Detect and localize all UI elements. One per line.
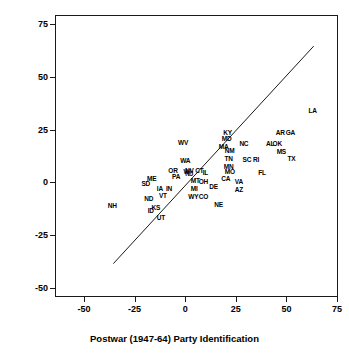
- data-point-wv: WV: [178, 140, 188, 147]
- x-tick-label: 75: [322, 305, 349, 314]
- x-tick-mark: [135, 297, 136, 302]
- y-tick-mark: [50, 130, 55, 131]
- data-point-ar: AR: [276, 129, 285, 136]
- data-point-wa: WA: [180, 158, 190, 165]
- data-point-la: LA: [309, 107, 317, 114]
- x-tick-mark: [236, 297, 237, 302]
- reference-line: [56, 16, 338, 297]
- data-point-tx: TX: [287, 156, 295, 163]
- data-point-md: MD: [222, 136, 232, 143]
- y-tick-mark: [50, 24, 55, 25]
- data-point-ca: CA: [221, 176, 230, 183]
- y-tick-label: 50: [8, 73, 48, 82]
- y-tick-label: -50: [8, 284, 48, 293]
- data-point-il: IL: [203, 170, 208, 177]
- y-tick-mark: [50, 182, 55, 183]
- data-point-de: DE: [209, 183, 218, 190]
- y-tick-mark: [50, 235, 55, 236]
- x-tick-mark: [286, 297, 287, 302]
- data-point-ga: GA: [286, 129, 295, 136]
- plot-area: NHSDMENDKSIDUTIAVTINORPAWAWINVNJCTILMTOH…: [55, 15, 338, 297]
- scatter-plot-figure: Contemporary (1976-88) Party Identificat…: [0, 0, 349, 358]
- data-point-pa: PA: [172, 174, 180, 181]
- data-point-vt: VT: [159, 193, 167, 200]
- data-point-me: ME: [147, 176, 156, 183]
- y-tick-mark: [50, 77, 55, 78]
- y-tick-label: 75: [8, 20, 48, 29]
- y-tick-label: 0: [8, 178, 48, 187]
- data-point-nc: NC: [239, 141, 248, 148]
- data-point-oh: OH: [199, 179, 208, 186]
- data-point-nm: NM: [225, 147, 235, 154]
- data-point-nh: NH: [108, 202, 117, 209]
- data-point-id: ID: [148, 208, 154, 215]
- x-tick-label: 25: [221, 305, 251, 314]
- data-point-co: CO: [199, 194, 208, 201]
- data-point-ri: RI: [253, 157, 259, 164]
- data-point-nd: ND: [144, 196, 153, 203]
- x-axis-title: Postwar (1947-64) Party Identification: [0, 333, 349, 344]
- data-point-sc: SC: [243, 157, 252, 164]
- x-tick-mark: [337, 297, 338, 302]
- x-tick-mark: [185, 297, 186, 302]
- data-point-fl: FL: [258, 170, 266, 177]
- x-axis-title-text: Postwar (1947-64) Party Identification: [90, 333, 259, 344]
- y-tick-label: 25: [8, 126, 48, 135]
- data-point-ut: UT: [157, 215, 165, 222]
- data-point-in: IN: [166, 185, 172, 192]
- x-tick-mark: [84, 297, 85, 302]
- data-point-ne: NE: [214, 201, 223, 208]
- x-tick-label: -25: [120, 305, 150, 314]
- x-tick-label: 0: [170, 305, 200, 314]
- data-point-wy: WY: [188, 194, 198, 201]
- data-point-mi: MI: [191, 185, 198, 192]
- data-point-az: AZ: [235, 186, 243, 193]
- y-tick-label: -25: [8, 231, 48, 240]
- y-tick-mark: [50, 288, 55, 289]
- data-point-ms: MS: [277, 148, 286, 155]
- x-tick-label: -50: [69, 305, 99, 314]
- x-tick-label: 50: [271, 305, 301, 314]
